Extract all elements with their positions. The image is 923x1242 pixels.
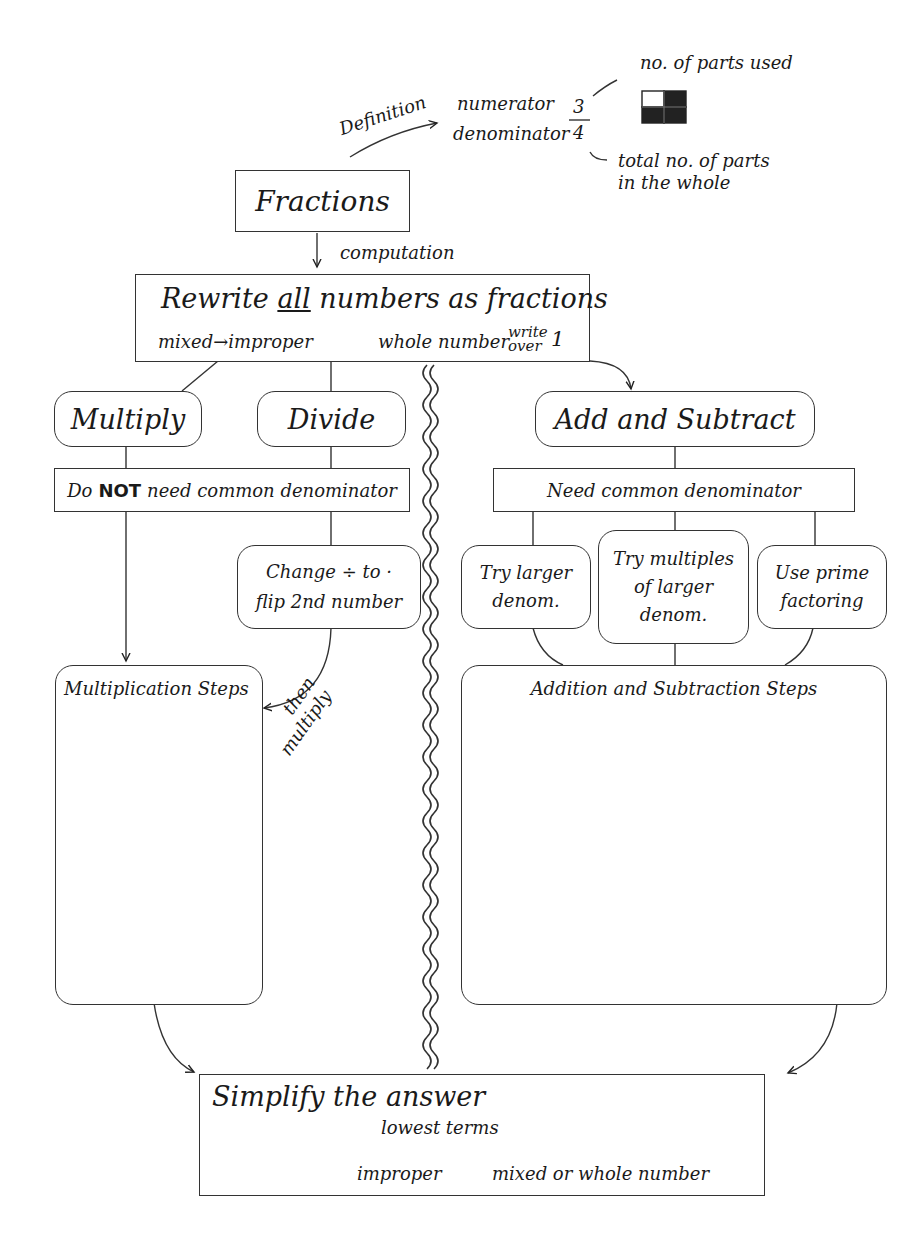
rewrite-to-multiply bbox=[182, 361, 218, 391]
lowest-terms-label: lowest terms bbox=[381, 1117, 499, 1138]
whole-note: whole number bbox=[378, 331, 509, 352]
rewrite-to-addsub bbox=[590, 361, 631, 389]
computation-label: computation bbox=[340, 242, 455, 263]
fraction-grid-icon bbox=[642, 91, 686, 123]
multiply-box: Multiply bbox=[54, 391, 202, 447]
denominator-label: denominator bbox=[453, 123, 569, 144]
mult-to-simplify-arrow bbox=[154, 1003, 194, 1072]
addition-steps-box: Addition and Subtraction Steps bbox=[461, 665, 887, 1005]
rewrite-title: Rewrite all numbers as fractions bbox=[161, 283, 608, 314]
multiplication-steps-label: Multiplication Steps bbox=[64, 678, 249, 699]
change-divide-box: Change ÷ to · flip 2nd number bbox=[237, 545, 421, 629]
simplify-title: Simplify the answer bbox=[212, 1081, 485, 1112]
fractions-root-box: Fractions bbox=[235, 170, 410, 232]
over-note: over bbox=[508, 339, 542, 353]
divide-label: Divide bbox=[288, 404, 375, 435]
multiply-label: Multiply bbox=[71, 404, 185, 435]
parts-used-label: no. of parts used bbox=[640, 52, 793, 73]
no-common-denominator-box: Do NOT need common denominator bbox=[54, 468, 410, 512]
mixed-whole-label: mixed or whole number bbox=[492, 1163, 709, 1184]
numerator-value: 3 bbox=[573, 96, 584, 117]
multiplication-steps-box: Multiplication Steps bbox=[55, 665, 263, 1005]
mixed-note: mixed→improper bbox=[158, 331, 313, 352]
add-to-simplify-arrow bbox=[788, 1003, 837, 1073]
addition-steps-label: Addition and Subtraction Steps bbox=[462, 678, 886, 699]
change-line1: Change ÷ to · bbox=[266, 557, 392, 587]
rewrite-emph: all bbox=[277, 283, 310, 314]
option-prime-factoring: Use prime factoring bbox=[757, 545, 887, 629]
callout-numerator bbox=[593, 80, 617, 96]
need-common-label: Need common denominator bbox=[547, 480, 801, 501]
divide-box: Divide bbox=[257, 391, 406, 447]
one-note: 1 bbox=[551, 327, 564, 351]
total-parts-label-1: total no. of parts bbox=[618, 150, 770, 171]
option-try-multiples: Try multiples of larger denom. bbox=[598, 530, 749, 644]
option-try-larger: Try larger denom. bbox=[461, 545, 591, 629]
rewrite-box: Rewrite all numbers as fractions mixed→i… bbox=[135, 274, 590, 362]
total-parts-label-2: in the whole bbox=[618, 172, 731, 193]
need-common-denominator-box: Need common denominator bbox=[493, 468, 855, 512]
simplify-box: Simplify the answer lowest terms imprope… bbox=[199, 1074, 765, 1196]
numerator-label: numerator bbox=[457, 93, 554, 114]
denominator-value: 4 bbox=[573, 122, 584, 143]
change-line2: flip 2nd number bbox=[256, 587, 402, 617]
callout-denominator bbox=[590, 152, 607, 160]
fractions-root-label: Fractions bbox=[255, 185, 390, 218]
add-subtract-label: Add and Subtract bbox=[555, 404, 796, 435]
not-emph: NOT bbox=[98, 480, 141, 501]
improper-label: improper bbox=[357, 1163, 442, 1184]
add-subtract-box: Add and Subtract bbox=[535, 391, 815, 447]
